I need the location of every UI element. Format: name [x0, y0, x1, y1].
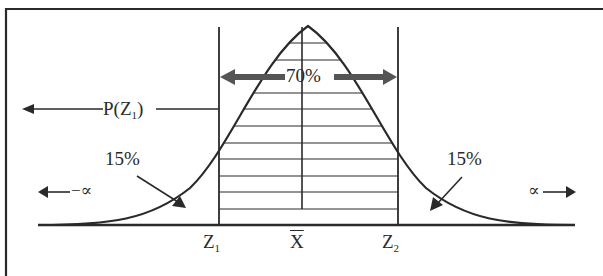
right-tail-label: 15%: [447, 149, 482, 168]
left-tail-pointer-arrow: [137, 176, 186, 208]
z1-tick-label: Z1: [203, 232, 220, 254]
p-z1-label: P(Z1): [103, 99, 143, 121]
z2-subscript: 2: [394, 242, 400, 254]
mean-tick-label: X: [290, 232, 304, 251]
left-tail-label: 15%: [105, 149, 140, 168]
z1-subscript: 1: [215, 242, 221, 254]
neg-infinity-label: −∝: [71, 182, 92, 199]
z2-main: Z: [382, 231, 394, 252]
neg-infinity-arrow-icon: [38, 186, 70, 198]
p-z1-main: P(Z: [103, 98, 132, 119]
pos-infinity-label: ∝: [528, 182, 540, 199]
central-area-label: 70%: [286, 66, 321, 85]
frame-border: [6, 8, 603, 276]
p-z1-close: ): [137, 98, 143, 119]
pos-infinity-arrow-icon: [543, 186, 576, 198]
z1-main: Z: [203, 231, 215, 252]
z2-tick-label: Z2: [382, 232, 399, 254]
